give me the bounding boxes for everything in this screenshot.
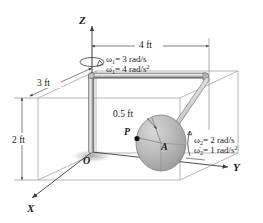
- axis-z-label: Z: [78, 14, 86, 26]
- origin-label: O: [83, 155, 90, 166]
- alpha2-superscript: 2: [235, 144, 238, 151]
- rod-segment-vertical: [89, 73, 94, 153]
- point-a-label: A: [160, 141, 168, 152]
- alpha1-superscript: 2: [147, 63, 150, 70]
- dimension-4ft: [92, 38, 209, 130]
- diagram-canvas: Z X Y P A: [0, 0, 263, 223]
- radius-dimension-label: 0.5 ft: [113, 109, 133, 119]
- omega2-label-group: ω2= 2 rad/s ω̇2= 1 rad/s2: [194, 135, 238, 156]
- axis-y-label: Y: [233, 161, 241, 173]
- rod-corner-top-left: [89, 73, 94, 78]
- point-p-marker: [134, 136, 139, 141]
- omega1-equals: = 3 rad/s: [115, 54, 147, 64]
- dimension-2ft-label: 2 ft: [12, 135, 25, 145]
- wireframe-box: [38, 71, 238, 180]
- alpha1-equals: = 4 rad/s: [115, 64, 147, 74]
- axis-x-label: X: [26, 202, 35, 214]
- dimension-4ft-label: 4 ft: [139, 40, 152, 50]
- omega1-label-group: ω1= 3 rad/s ω̇1= 4 rad/s2: [106, 54, 150, 75]
- dimension-3ft-label: 3 ft: [37, 78, 50, 88]
- point-p-label: P: [124, 126, 131, 137]
- omega1-curl-arrowhead: [97, 60, 103, 66]
- omega2-equals: = 2 rad/s: [203, 135, 235, 145]
- omega2-leader: [186, 158, 205, 160]
- alpha2-equals: = 1 rad/s: [203, 145, 235, 155]
- mechanics-figure: Z X Y P A: [0, 0, 263, 223]
